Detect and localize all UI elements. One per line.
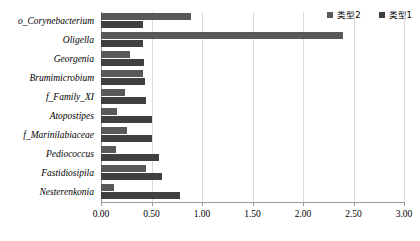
bar-group [101, 50, 404, 69]
x-tick-mark [101, 202, 102, 206]
bar-group [101, 31, 404, 50]
bar-type1[interactable] [101, 21, 143, 28]
x-tick-mark [303, 202, 304, 206]
x-tick-label: 2.50 [345, 210, 362, 220]
bar-group [101, 88, 404, 107]
bar-group [101, 164, 404, 183]
x-tick-mark [152, 202, 153, 206]
category-label: f_Marinilabiaceae [23, 131, 94, 141]
category-label: Atopostipes [50, 112, 94, 122]
bar-type1[interactable] [101, 40, 143, 47]
x-tick-mark [404, 202, 405, 206]
bar-type2[interactable] [101, 89, 125, 96]
category-label: o_Corynebacterium [18, 17, 94, 27]
bar-type1[interactable] [101, 78, 145, 85]
bar-type1[interactable] [101, 97, 146, 104]
category-label: Nesterenkonia [39, 188, 94, 198]
bar-type2[interactable] [101, 184, 114, 191]
bar-type1[interactable] [101, 192, 180, 199]
x-tick-label: 3.00 [396, 210, 413, 220]
plot-area [101, 12, 404, 202]
bar-type1[interactable] [101, 173, 162, 180]
x-tick-label: 0.00 [93, 210, 110, 220]
bar-type2[interactable] [101, 70, 143, 77]
bar-group [101, 183, 404, 202]
bar-type2[interactable] [101, 108, 117, 115]
x-tick-mark [202, 202, 203, 206]
category-label: Pediococcus [46, 150, 94, 160]
bar-type1[interactable] [101, 116, 152, 123]
bar-type1[interactable] [101, 154, 159, 161]
category-label: f_Family_XI [46, 93, 94, 103]
x-tick-mark [253, 202, 254, 206]
bar-group [101, 69, 404, 88]
category-label: Brumimicrobium [29, 74, 94, 84]
x-tick-label: 1.50 [244, 210, 261, 220]
bar-type2[interactable] [101, 32, 343, 39]
category-label: Oligella [63, 36, 94, 46]
bar-chart: 类型2 类型1 o_CorynebacteriumOligellaGeorgen… [0, 0, 420, 241]
category-label: Georgenia [54, 55, 94, 65]
bar-type2[interactable] [101, 51, 130, 58]
bar-group [101, 107, 404, 126]
bar-group [101, 126, 404, 145]
bar-type2[interactable] [101, 127, 127, 134]
category-label: Fastidiosipila [41, 169, 94, 179]
bar-type1[interactable] [101, 59, 144, 66]
bar-group [101, 145, 404, 164]
x-tick-label: 0.50 [143, 210, 160, 220]
x-tick-mark [354, 202, 355, 206]
bar-type2[interactable] [101, 146, 116, 153]
bar-type1[interactable] [101, 135, 152, 142]
bar-type2[interactable] [101, 13, 191, 20]
x-tick-label: 2.00 [295, 210, 312, 220]
gridline [404, 12, 405, 202]
x-tick-label: 1.00 [194, 210, 211, 220]
bar-type2[interactable] [101, 165, 146, 172]
bar-group [101, 12, 404, 31]
